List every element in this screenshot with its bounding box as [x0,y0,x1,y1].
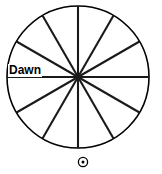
sector-diagram: Dawn [0,0,162,174]
sector-diagram-svg [0,0,162,174]
sun-symbol-icon [78,157,87,166]
dawn-label: Dawn [8,64,42,77]
sun-symbol-dot [82,161,85,164]
